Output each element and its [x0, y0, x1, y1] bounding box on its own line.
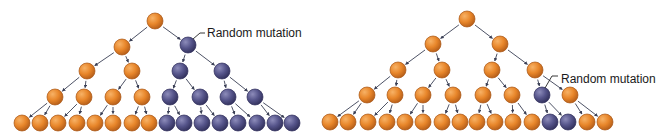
- original-cell-node: [32, 115, 48, 131]
- original-cell-node: [390, 62, 406, 78]
- lineage-arrow: [135, 106, 138, 114]
- lineage-arrow: [441, 25, 459, 39]
- original-cell-node: [505, 114, 521, 130]
- lineage-arrow: [475, 25, 492, 38]
- original-cell-node: [114, 39, 130, 55]
- lineage-arrow: [538, 80, 540, 86]
- original-cell-node: [124, 63, 140, 79]
- original-cell-node: [134, 89, 150, 105]
- original-cell-node: [87, 115, 103, 131]
- original-cell-node: [69, 115, 85, 131]
- lineage-arrow: [85, 81, 86, 88]
- lineage-arrow: [175, 106, 180, 115]
- mutant-cell-node: [214, 63, 230, 79]
- lineage-arrow: [446, 79, 449, 86]
- mutation-leader-line: [193, 33, 205, 39]
- original-cell-node: [379, 114, 395, 130]
- original-cell-node: [322, 114, 338, 130]
- lineage-arrow: [62, 77, 79, 91]
- mutation-label: Random mutation: [207, 26, 302, 40]
- original-cell-node: [359, 87, 375, 103]
- lineage-arrow: [486, 79, 488, 86]
- lineage-arrow: [126, 56, 129, 62]
- lineage-arrow: [545, 105, 548, 113]
- lineage-arrow: [65, 104, 77, 116]
- lineage-arrow: [446, 104, 450, 113]
- lineage-arrow: [436, 53, 439, 61]
- lineage-arrow: [518, 103, 526, 114]
- lineage-arrow: [429, 78, 436, 87]
- lineage-arrow: [354, 103, 362, 114]
- mutant-cell-node: [212, 115, 228, 131]
- lineage-arrow: [479, 105, 481, 113]
- original-cell-node: [105, 89, 121, 105]
- mutant-cell-node: [267, 115, 283, 131]
- lineage-arrow: [119, 79, 127, 89]
- original-cell-node: [562, 87, 578, 103]
- lineage-arrow: [498, 78, 506, 88]
- original-cell-node: [147, 13, 163, 29]
- lineage-arrow: [173, 80, 176, 88]
- lineage-arrow: [230, 77, 248, 91]
- mutant-cell-node: [534, 87, 550, 103]
- original-cell-node: [579, 114, 595, 130]
- lineage-arrow: [575, 104, 582, 115]
- original-cell-node: [445, 87, 461, 103]
- lineage-arrow: [375, 102, 388, 115]
- original-cell-node: [47, 89, 63, 105]
- lineage-arrow: [406, 50, 425, 64]
- original-cell-node: [469, 114, 485, 130]
- mutant-cell-node: [560, 114, 576, 130]
- original-cell-node: [434, 114, 450, 130]
- original-cell-node: [415, 87, 431, 103]
- original-cell-node: [597, 114, 613, 130]
- lineage-arrow: [183, 55, 185, 62]
- lineage-arrow: [396, 80, 397, 86]
- original-cell-node: [387, 87, 403, 103]
- original-cell-node: [487, 114, 503, 130]
- lineage-arrow: [168, 107, 169, 114]
- original-cell-node: [425, 36, 441, 52]
- mutant-cell-node: [194, 115, 210, 131]
- original-cell-node: [360, 114, 376, 130]
- original-cell-node: [50, 115, 66, 131]
- lineage-arrow: [206, 105, 214, 116]
- lineage-arrow: [374, 76, 390, 89]
- original-cell-node: [492, 36, 508, 52]
- lineage-arrow: [95, 53, 114, 66]
- mutant-cell-node: [230, 115, 246, 131]
- lineage-arrow: [508, 50, 527, 64]
- lineage-arrow: [410, 103, 417, 114]
- mutant-cell-node: [249, 115, 265, 131]
- original-cell-node: [105, 115, 121, 131]
- lineage-arrow: [224, 81, 226, 88]
- lineage-arrow: [549, 102, 562, 115]
- lineage-arrow: [196, 51, 215, 65]
- lineage-arrow: [232, 106, 235, 114]
- lineage-arrow: [136, 80, 139, 88]
- original-cell-node: [141, 115, 157, 131]
- lineage-arrow: [495, 54, 497, 61]
- lineage-arrow: [487, 104, 491, 113]
- mutation-label: Random mutation: [561, 72, 656, 86]
- lineage-arrow: [45, 106, 50, 115]
- original-cell-node: [79, 63, 95, 79]
- mutant-cell-node: [162, 89, 178, 105]
- original-cell-node: [524, 114, 540, 130]
- lineage-arrow: [186, 79, 194, 90]
- mutant-cell-node: [172, 63, 188, 79]
- original-cell-node: [475, 87, 491, 103]
- lineage-arrow: [130, 27, 148, 41]
- lineage-arrow: [456, 105, 458, 113]
- lineage-arrow: [543, 76, 562, 90]
- original-cell-node: [459, 11, 475, 27]
- original-cell-node: [14, 115, 30, 131]
- mutation-lineage-diagram: Random mutation Random mutation: [0, 0, 656, 139]
- mutant-cell-node: [542, 114, 558, 130]
- mutant-cell-node: [192, 89, 208, 105]
- lineage-arrow: [145, 107, 147, 114]
- mutant-cell-node: [247, 89, 263, 105]
- original-cell-node: [124, 115, 140, 131]
- mutant-cell-node: [180, 37, 196, 53]
- lineage-arrow: [163, 27, 180, 40]
